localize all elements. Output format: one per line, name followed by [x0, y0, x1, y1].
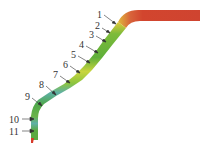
- point-label-11: 11: [9, 126, 19, 137]
- point-label-9: 9: [25, 91, 30, 102]
- point-label-5: 5: [71, 49, 76, 60]
- point-label-2: 2: [95, 20, 100, 31]
- point-label-7: 7: [53, 69, 58, 80]
- strip-diagram: 1 2 3 4 5 6 7 8 9 10 11: [0, 0, 207, 156]
- point-label-3: 3: [89, 29, 94, 40]
- point-label-10: 10: [9, 114, 19, 125]
- top-flange: [118, 10, 200, 28]
- point-label-4: 4: [79, 39, 84, 50]
- point-label-8: 8: [39, 79, 44, 90]
- point-label-6: 6: [63, 59, 68, 70]
- strip-tip: [31, 138, 34, 143]
- point-label-1: 1: [97, 9, 102, 20]
